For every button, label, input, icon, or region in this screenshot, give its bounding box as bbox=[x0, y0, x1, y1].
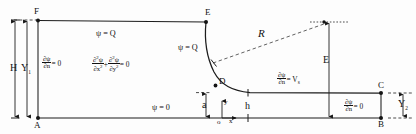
bc-label-free-surface: ∂ψ ∂n = Vs bbox=[277, 72, 300, 87]
laplace-term1-numerator: ∂2ψ bbox=[92, 56, 104, 65]
left-wall-fraction: ∂ψ ∂n bbox=[42, 56, 51, 71]
bc-label-top-stream: ψ = Q bbox=[96, 30, 116, 38]
laplace-term2-denominator: ∂y2 bbox=[108, 64, 120, 73]
point-label-B: B bbox=[378, 120, 384, 129]
axis-label-x: x bbox=[229, 118, 233, 125]
point-label-A: A bbox=[34, 121, 41, 130]
node-dot-C bbox=[379, 91, 383, 95]
laplace-term2-num-var: ψ bbox=[115, 56, 119, 63]
dimension-label-a: a bbox=[202, 100, 206, 110]
dimension-label-Y1-sub: 1 bbox=[28, 69, 31, 75]
laplace-term2-den-power: 2 bbox=[116, 64, 118, 69]
dimension-label-H: H bbox=[10, 63, 17, 73]
laplace-term1-denominator: ∂x2 bbox=[92, 64, 104, 73]
laplace-term1-den-power: 2 bbox=[100, 64, 102, 69]
free-surface-rhs: = V bbox=[286, 75, 297, 84]
dimension-label-Y2-sub: 2 bbox=[405, 105, 408, 111]
axis-label-origin: o bbox=[217, 119, 221, 126]
point-label-E-top: E bbox=[205, 8, 211, 17]
right-wall-rhs: = 0 bbox=[353, 102, 363, 111]
bc-label-inlet-stream: ψ = Q bbox=[178, 44, 198, 52]
figure-svg bbox=[0, 0, 416, 134]
right-wall-fraction: ∂ψ ∂n bbox=[344, 99, 353, 114]
laplace-term2-numerator: ∂2ψ bbox=[108, 56, 120, 65]
point-label-C: C bbox=[378, 81, 384, 90]
node-dot-E-datum bbox=[322, 20, 325, 23]
laplace-rhs: = 0 bbox=[120, 60, 130, 69]
radius-line-R bbox=[211, 24, 324, 67]
left-wall-rhs: = 0 bbox=[51, 59, 61, 68]
dimension-label-Y2: Y2 bbox=[398, 99, 408, 111]
free-surface-subscript: s bbox=[298, 79, 300, 85]
node-dot-D bbox=[214, 84, 218, 88]
free-surface-fraction: ∂ψ ∂n bbox=[277, 72, 286, 87]
bc-label-bottom-stream: ψ = 0 bbox=[152, 104, 170, 112]
laplace-term1-num-var: ψ bbox=[99, 56, 103, 63]
dimension-label-E: E bbox=[323, 55, 329, 65]
point-label-F: F bbox=[34, 7, 39, 16]
bc-label-left-wall: ∂ψ ∂n = 0 bbox=[42, 56, 61, 71]
governing-equation: ∂2ψ ∂x2 + ∂2ψ ∂y2 = 0 bbox=[92, 56, 130, 74]
axis-label-y: y bbox=[224, 99, 228, 106]
node-dot-E-top bbox=[204, 20, 208, 24]
free-surface-denominator: ∂n bbox=[277, 79, 286, 86]
dimension-label-Y1: Y1 bbox=[21, 63, 31, 75]
node-dot-F bbox=[36, 19, 40, 23]
dimension-label-h: h bbox=[245, 101, 250, 111]
diagram-canvas: F A E D C B H Y1 E a h Y2 R o x y ψ = Q … bbox=[0, 0, 416, 134]
dimension-label-R: R bbox=[258, 28, 265, 39]
point-label-D: D bbox=[219, 77, 226, 86]
bc-label-right-wall: ∂ψ ∂n = 0 bbox=[344, 99, 363, 114]
right-wall-denominator: ∂n bbox=[344, 106, 353, 113]
left-wall-denominator: ∂n bbox=[42, 63, 51, 70]
top-boundary-FE bbox=[38, 21, 206, 23]
laplace-term1: ∂2ψ ∂x2 bbox=[92, 56, 104, 74]
laplace-term2: ∂2ψ ∂y2 bbox=[108, 56, 120, 74]
